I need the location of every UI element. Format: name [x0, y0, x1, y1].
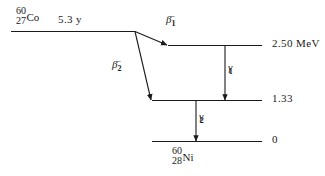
daughter-symbol: Ni — [183, 151, 194, 163]
beta2-transition-label: β−2 — [112, 59, 125, 70]
beta1-transition-label: β−1 — [166, 14, 179, 25]
gamma2-subscript: 2 — [200, 116, 204, 125]
parent-atomic-number: 27 — [16, 16, 26, 26]
daughter-nuclide-numbers: 60 28 — [172, 146, 182, 166]
diagram-canvas — [0, 0, 325, 176]
parent-symbol: Co — [27, 11, 40, 23]
energy-label-ground: 0 — [272, 134, 278, 145]
gamma1-subscript: 1 — [229, 67, 233, 76]
energy-label-1-33: 1.33 — [272, 93, 293, 104]
gamma1-transition-label: γ1 — [228, 62, 236, 73]
transition-arrow-beta2 — [135, 32, 151, 101]
gamma2-transition-label: γ2 — [199, 111, 207, 122]
parent-nuclide-label: 60 27 Co — [16, 6, 39, 26]
energy-label-2-50-mev: 2.50 MeV — [272, 38, 320, 49]
beta1-subscript: 1 — [172, 19, 176, 28]
daughter-atomic-number: 28 — [172, 156, 182, 166]
half-life-label: 5.3 y — [58, 14, 82, 25]
decay-scheme-diagram: 60 27 Co 5.3 y β−1 β−2 γ1 γ2 2.50 MeV 1.… — [0, 0, 325, 176]
daughter-nuclide-label: 60 28 Ni — [172, 146, 194, 166]
transition-arrow-beta1 — [135, 32, 167, 46]
parent-nuclide-numbers: 60 27 — [16, 6, 26, 26]
beta2-subscript: 2 — [118, 64, 122, 73]
